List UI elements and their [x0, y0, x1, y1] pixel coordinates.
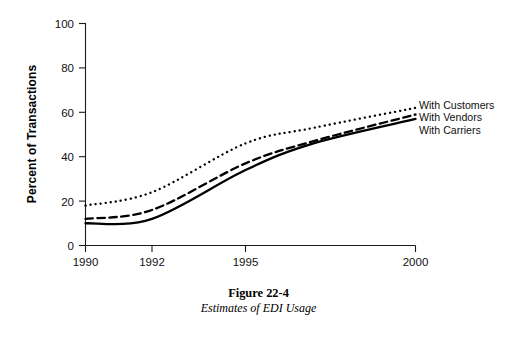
chart-legend: With Customers With Vendors With Carrier… — [419, 99, 517, 136]
series-line-with-carriers — [86, 119, 416, 224]
y-tick-label-0: 0 — [68, 240, 74, 252]
figure-container: 100 80 60 40 20 0 1990 1992 1995 2000 Pe… — [0, 0, 517, 338]
y-axis-title: Percent of Transactions — [25, 65, 39, 204]
y-tick-label-80: 80 — [61, 62, 74, 74]
x-axis-ticks — [86, 246, 416, 253]
legend-item-with-carriers: With Carriers — [419, 124, 517, 136]
x-tick-label-2000: 2000 — [403, 256, 429, 268]
y-tick-label-60: 60 — [61, 107, 74, 119]
legend-item-with-vendors: With Vendors — [419, 111, 517, 123]
x-tick-label-1995: 1995 — [233, 256, 259, 268]
figure-caption: Figure 22-4 Estimates of EDI Usage — [0, 286, 517, 315]
y-tick-label-40: 40 — [61, 151, 74, 163]
series-line-with-customers — [86, 108, 416, 206]
y-tick-label-20: 20 — [61, 196, 74, 208]
legend-item-with-customers: With Customers — [419, 99, 517, 111]
figure-caption-title: Figure 22-4 — [0, 286, 517, 300]
y-tick-label-100: 100 — [55, 18, 74, 30]
x-tick-label-1990: 1990 — [73, 256, 99, 268]
figure-caption-subtitle: Estimates of EDI Usage — [0, 301, 517, 315]
x-tick-label-1992: 1992 — [139, 256, 165, 268]
chart-plot: 100 80 60 40 20 0 1990 1992 1995 2000 Pe… — [0, 0, 517, 300]
y-axis-ticks — [79, 24, 86, 246]
